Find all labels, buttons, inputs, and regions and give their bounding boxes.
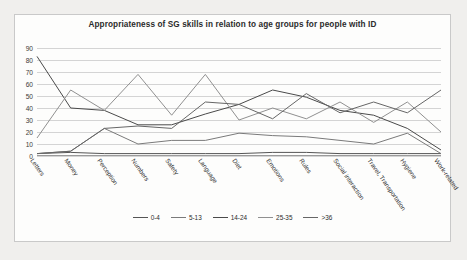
legend-item[interactable]: >36 (303, 214, 332, 221)
legend-label: 14-24 (231, 214, 247, 221)
legend-swatch (171, 217, 186, 218)
legend-swatch (133, 217, 148, 218)
x-axis-tick-label: Money (63, 157, 80, 177)
x-axis-tick-label: Social interaction (332, 157, 366, 201)
chart-container: Appropriateness of SG skills in relation… (14, 14, 451, 242)
x-axis-tick-label: Rules (299, 157, 314, 174)
series-line (37, 90, 441, 154)
legend-item[interactable]: 0-4 (133, 214, 160, 221)
series-line (37, 152, 441, 153)
chart-legend: 0-45-1314-2425-35>36 (15, 214, 450, 221)
legend-label: 0-4 (151, 214, 160, 221)
legend-item[interactable]: 25-35 (258, 214, 292, 221)
x-axis-tick-label: Work-related (433, 157, 460, 191)
y-axis-tick-label: 10 (26, 141, 33, 148)
y-axis-tick-label: 60 (26, 81, 33, 88)
x-axis-tick-label: Emotions (265, 157, 286, 183)
legend-swatch (258, 217, 273, 218)
x-axis-tick-label: Language (198, 157, 220, 184)
y-axis-tick-label: 70 (26, 69, 33, 76)
y-axis-tick-label: 30 (26, 117, 33, 124)
chart-title: Appropriateness of SG skills in relation… (15, 20, 450, 29)
plot-area: 0102030405060708090 (37, 48, 441, 156)
series-line (37, 74, 441, 138)
y-axis-tick-label: 80 (26, 57, 33, 64)
y-axis-tick-label: 50 (26, 93, 33, 100)
series-line (37, 128, 441, 153)
legend-swatch (303, 217, 318, 218)
legend-swatch (213, 217, 228, 218)
x-axis-tick-label: Perception (97, 157, 120, 186)
legend-label: 5-13 (189, 214, 202, 221)
x-axis-tick-label: Numbers (130, 157, 151, 182)
series-line (37, 56, 441, 150)
y-axis-tick-label: 40 (26, 105, 33, 112)
legend-label: >36 (321, 214, 332, 221)
x-axis-tick-label: Safety (164, 157, 180, 176)
y-axis-tick-label: 20 (26, 129, 33, 136)
legend-item[interactable]: 5-13 (171, 214, 202, 221)
x-axis-tick-label: Hygiene (400, 157, 419, 180)
legend-item[interactable]: 14-24 (213, 214, 247, 221)
x-axis-tick-label: Letters (29, 157, 46, 177)
series-lines (37, 48, 441, 156)
x-axis-tick-label: Travel, Transportation (366, 157, 407, 212)
x-axis-tick-label: Diet (231, 157, 243, 170)
y-axis-tick-label: 90 (26, 45, 33, 52)
x-axis-labels: LettersMoneyPerceptionNumbersSafetyLangu… (37, 157, 441, 219)
legend-label: 25-35 (276, 214, 292, 221)
